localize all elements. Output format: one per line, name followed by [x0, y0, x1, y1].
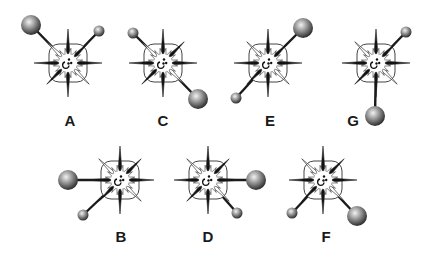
small-sphere [78, 210, 89, 221]
molecule-c: C [128, 28, 209, 130]
molecule-e: E [231, 18, 314, 129]
small-sphere [232, 208, 243, 219]
large-sphere [365, 106, 385, 126]
figure-label: A [65, 112, 76, 129]
molecule-g: G [342, 27, 412, 130]
large-sphere [21, 15, 41, 35]
small-sphere [287, 208, 298, 219]
figure-label: D [203, 228, 214, 245]
small-sphere [128, 28, 139, 39]
large-sphere [347, 206, 367, 226]
large-sphere [188, 89, 208, 109]
molecule-a: A [21, 15, 105, 129]
large-sphere [58, 170, 78, 190]
large-sphere [246, 170, 266, 190]
molecule-f: F [287, 146, 368, 245]
small-sphere [401, 27, 412, 38]
figure-label: C [158, 112, 169, 129]
molecule-diagram: ACEGBDF [0, 0, 438, 260]
molecule-d: D [174, 146, 266, 245]
small-sphere [231, 93, 242, 104]
figure-label: F [321, 228, 330, 245]
figure-label: B [116, 228, 127, 245]
large-sphere [293, 18, 313, 38]
molecule-b: B [58, 146, 154, 245]
figure-label: G [347, 112, 359, 129]
figure-label: E [265, 112, 275, 129]
small-sphere [94, 26, 105, 37]
